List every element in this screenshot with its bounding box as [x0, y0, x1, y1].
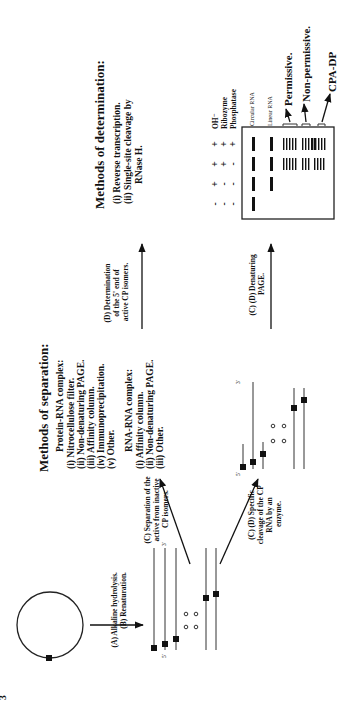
- arrow-cpadp-icon: [322, 94, 330, 122]
- circle-icon: [17, 592, 83, 658]
- svg-text:-: -: [228, 202, 238, 205]
- svg-text:-: -: [228, 162, 238, 165]
- svg-text:5': 5': [235, 472, 241, 476]
- determination-title: Methods of determination:: [92, 60, 107, 209]
- svg-text:(v) Other.: (v) Other.: [106, 430, 117, 469]
- cleaved-strands-block-2: 5' 3': [235, 380, 307, 476]
- label-separation: (C) Separation of the active from inacti…: [143, 474, 170, 543]
- gel-box: [242, 127, 334, 219]
- svg-text:+: +: [228, 141, 238, 146]
- label-renaturation: (B) Renaturation.: [119, 572, 128, 629]
- svg-text:Circular RNA: Circular RNA: [249, 92, 255, 126]
- svg-text:(ii) Single-site cleavage by: (ii) Single-site cleavage by: [123, 99, 134, 204]
- gel-panel: - + + + - - + + - - - + OH⁻ Ribozyme Pho…: [210, 26, 338, 219]
- svg-text:Linear RNA: Linear RNA: [267, 96, 273, 126]
- cp-rna-schematic: 3 (A) Alkaline hydrolysis. (B) Renaturat…: [0, 0, 347, 714]
- label-cleavage: (C) (D) Specific cleavage of the CP RNA …: [247, 484, 283, 544]
- marker-square-icon: [46, 655, 52, 661]
- figure-stage: 3 (A) Alkaline hydrolysis. (B) Renaturat…: [0, 0, 347, 714]
- svg-text:(iii) Other.: (iii) Other.: [155, 427, 166, 469]
- methods-of-determination: Methods of determination: (i) Reverse tr…: [92, 60, 144, 209]
- rna-rna-heading: RNA-RNA complex:: [124, 369, 134, 452]
- arrow-permissive-icon: [286, 109, 290, 122]
- svg-text:OH⁻: OH⁻: [211, 113, 220, 129]
- label-alkaline: (A) Alkaline hydrolysis.: [110, 572, 119, 648]
- separation-title: Methods of separation:: [36, 343, 51, 472]
- svg-text:RNase H.: RNase H.: [134, 145, 144, 184]
- page-mark: 3: [0, 695, 8, 700]
- label-nonpermissive: Non-permissive.: [300, 26, 312, 102]
- label-permissive: Permissive.: [282, 52, 294, 106]
- label-determination: (D) Determination of the 5' end of activ…: [103, 262, 130, 323]
- label-3prime: 3': [161, 542, 167, 546]
- svg-text:3': 3': [235, 380, 241, 384]
- label-denaturing-page: (C) (D) Denaturing PAGE.: [248, 252, 266, 315]
- svg-text:Phosphatase: Phosphatase: [229, 88, 238, 129]
- arrow-nonpermissive-icon: [304, 104, 306, 122]
- svg-text:Ribozyme: Ribozyme: [220, 96, 229, 129]
- label-cpadp: CPA-DP: [326, 52, 338, 92]
- svg-text:-: -: [228, 182, 238, 185]
- svg-text:(i) Reverse transcription.: (i) Reverse transcription.: [112, 102, 123, 204]
- linear-isomers-block-1: 5' 3': [151, 542, 219, 658]
- protein-rna-heading: Protein-RNA complex:: [55, 360, 65, 452]
- methods-of-separation: Methods of separation: Protein-RNA compl…: [36, 343, 166, 472]
- circular-rna: [17, 592, 83, 661]
- label-5prime: 5': [161, 654, 167, 658]
